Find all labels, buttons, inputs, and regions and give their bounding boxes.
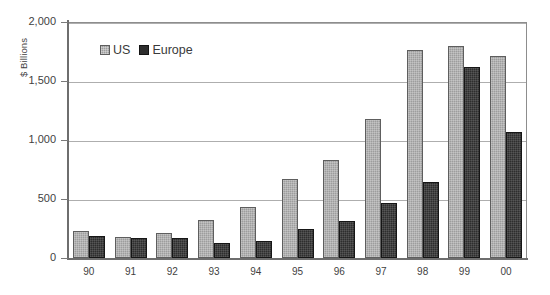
bar-us-00 bbox=[490, 56, 506, 258]
bar-us-94 bbox=[240, 207, 256, 258]
y-axis-tick-label: 1,000 bbox=[0, 133, 56, 145]
y-axis-tick-label: 0 bbox=[0, 251, 56, 263]
legend-label: Europe bbox=[152, 43, 192, 57]
legend-label: US bbox=[113, 43, 130, 57]
bar-us-98 bbox=[407, 50, 423, 258]
bar-europe-97 bbox=[381, 203, 397, 258]
bar-europe-00 bbox=[506, 132, 522, 258]
bar-us-90 bbox=[73, 231, 89, 258]
y-axis-tick-label: 500 bbox=[0, 192, 56, 204]
x-axis-tick-label: 91 bbox=[110, 266, 152, 277]
bar-europe-98 bbox=[423, 182, 439, 258]
bar-us-95 bbox=[282, 179, 298, 258]
bar-us-93 bbox=[198, 220, 214, 258]
bar-us-92 bbox=[156, 233, 172, 258]
y-axis-tick-label: 1,500 bbox=[0, 74, 56, 86]
bar-europe-95 bbox=[298, 229, 314, 259]
legend-entry-us: US bbox=[100, 43, 130, 57]
x-axis-tick-label: 95 bbox=[277, 266, 319, 277]
x-axis-tick-label: 90 bbox=[68, 266, 110, 277]
x-axis-tick-label: 92 bbox=[151, 266, 193, 277]
chart-legend: USEurope bbox=[100, 43, 193, 57]
x-axis-tick-label: 00 bbox=[485, 266, 527, 277]
y-axis-tick-label: 2,000 bbox=[0, 15, 56, 27]
y-axis-tick bbox=[61, 22, 68, 23]
x-axis-tick-label: 97 bbox=[360, 266, 402, 277]
europe-swatch-icon bbox=[139, 45, 149, 55]
legend-entry-europe: Europe bbox=[139, 43, 192, 57]
x-axis-line bbox=[67, 258, 528, 260]
bar-chart: $ Billions USEurope 05001,0001,5002,0009… bbox=[0, 0, 550, 295]
x-axis-tick-label: 98 bbox=[402, 266, 444, 277]
bar-us-97 bbox=[365, 119, 381, 258]
bar-us-91 bbox=[115, 237, 131, 258]
bar-europe-94 bbox=[256, 241, 272, 258]
y-axis-tick bbox=[61, 81, 68, 82]
plot-area bbox=[68, 22, 527, 258]
us-swatch-icon bbox=[100, 45, 110, 55]
gridline bbox=[68, 23, 526, 24]
x-axis-tick-label: 93 bbox=[193, 266, 235, 277]
bar-europe-99 bbox=[464, 67, 480, 258]
bar-europe-96 bbox=[339, 221, 355, 258]
x-axis-tick-label: 99 bbox=[443, 266, 485, 277]
x-axis-tick-label: 94 bbox=[235, 266, 277, 277]
y-axis-tick bbox=[61, 199, 68, 200]
bar-europe-93 bbox=[214, 243, 230, 258]
bar-europe-90 bbox=[89, 236, 105, 258]
bar-us-96 bbox=[323, 160, 339, 258]
y-axis-tick bbox=[61, 140, 68, 141]
bar-europe-92 bbox=[172, 238, 188, 258]
y-axis-tick bbox=[61, 258, 68, 259]
bar-europe-91 bbox=[131, 238, 147, 258]
bar-us-99 bbox=[448, 46, 464, 258]
x-axis-tick-label: 96 bbox=[318, 266, 360, 277]
